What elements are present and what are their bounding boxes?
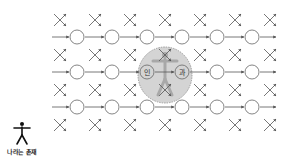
cross-arrow-icon — [124, 49, 136, 61]
person-figure-icon — [14, 122, 30, 144]
cross-arrow-icon — [229, 84, 241, 96]
node-circle — [105, 30, 119, 44]
node-circle — [210, 30, 224, 44]
node-label: 과 — [179, 68, 186, 77]
cross-arrow-icon — [194, 119, 206, 131]
cross-arrow-icon — [264, 84, 276, 96]
node-circle — [140, 100, 154, 114]
node-circle — [105, 100, 119, 114]
cross-arrow-icon — [54, 119, 66, 131]
node-circle — [175, 100, 189, 114]
cross-arrow-icon — [194, 84, 206, 96]
node-circle — [245, 30, 259, 44]
cross-arrow-icon — [89, 14, 101, 26]
node-circle — [70, 65, 84, 79]
cross-arrow-icon — [264, 49, 276, 61]
cross-arrow-icon — [264, 119, 276, 131]
cross-arrow-icon — [159, 14, 171, 26]
cross-arrow-icon — [229, 14, 241, 26]
node-circle — [175, 30, 189, 44]
cross-arrow-icon — [194, 14, 206, 26]
cross-arrow-icon — [124, 14, 136, 26]
cross-arrow-icon — [89, 84, 101, 96]
cross-arrow-icon — [54, 84, 66, 96]
cross-arrow-icon — [124, 119, 136, 131]
cross-arrow-icon — [124, 84, 136, 96]
cross-arrow-icon — [229, 49, 241, 61]
cross-arrow-icon — [264, 14, 276, 26]
node-circle — [210, 100, 224, 114]
cross-arrow-icon — [89, 49, 101, 61]
cross-arrow-icon — [54, 49, 66, 61]
node-circle — [245, 65, 259, 79]
node-circle — [140, 30, 154, 44]
cross-arrow-icon — [89, 119, 101, 131]
node-circle — [70, 30, 84, 44]
node-circle — [210, 65, 224, 79]
node-circle — [105, 65, 119, 79]
node-label: 인 — [144, 68, 150, 77]
person-caption: 나라는 존재 — [0, 147, 44, 156]
causal-network-diagram: 인과 — [0, 0, 293, 162]
node-circle — [70, 100, 84, 114]
cross-arrow-icon — [54, 14, 66, 26]
node-circle — [245, 100, 259, 114]
cross-arrow-icon — [229, 119, 241, 131]
cross-arrow-icon — [194, 49, 206, 61]
cross-arrow-icon — [159, 119, 171, 131]
